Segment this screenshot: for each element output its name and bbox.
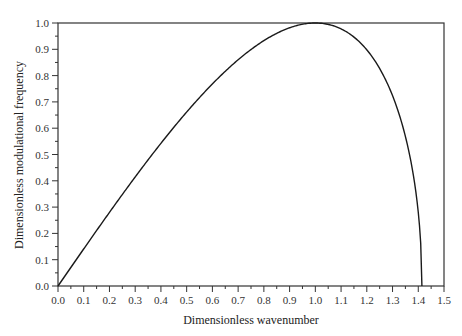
y-tick-label: 1.0 <box>35 17 49 29</box>
x-tick-label: 0.9 <box>283 294 297 306</box>
x-axis-label: Dimensionless wavenumber <box>183 313 319 327</box>
y-axis-label: Dimensionless modulational frequency <box>12 61 26 249</box>
x-tick-label: 0.2 <box>103 294 117 306</box>
x-tick-label: 0.7 <box>231 294 245 306</box>
plot-frame <box>58 23 444 286</box>
x-tick-label: 0.0 <box>51 294 65 306</box>
x-tick-label: 1.0 <box>308 294 322 306</box>
x-axis-ticks: 0.00.10.20.30.40.50.60.70.80.91.01.11.21… <box>51 286 451 306</box>
y-tick-label: 0.9 <box>35 43 49 55</box>
y-tick-label: 0.1 <box>35 254 49 266</box>
y-tick-label: 0.7 <box>35 96 49 108</box>
x-tick-label: 1.4 <box>411 294 425 306</box>
x-tick-label: 1.1 <box>334 294 348 306</box>
x-tick-label: 0.1 <box>77 294 91 306</box>
y-axis-ticks: 0.00.10.20.30.40.50.60.70.80.91.0 <box>35 17 58 292</box>
x-tick-label: 0.3 <box>128 294 142 306</box>
x-tick-label: 1.3 <box>386 294 400 306</box>
y-tick-label: 0.2 <box>35 227 49 239</box>
x-tick-label: 1.5 <box>437 294 451 306</box>
y-tick-label: 0.4 <box>35 175 49 187</box>
y-tick-label: 0.5 <box>35 149 49 161</box>
x-tick-label: 0.8 <box>257 294 271 306</box>
data-curve <box>58 23 422 286</box>
x-tick-label: 1.2 <box>360 294 374 306</box>
chart: 0.00.10.20.30.40.50.60.70.80.91.0 0.00.1… <box>0 0 462 336</box>
y-tick-label: 0.6 <box>35 122 49 134</box>
y-tick-label: 0.3 <box>35 201 49 213</box>
x-tick-label: 0.4 <box>154 294 168 306</box>
x-tick-label: 0.6 <box>206 294 220 306</box>
x-tick-label: 0.5 <box>180 294 194 306</box>
y-tick-label: 0.8 <box>35 70 49 82</box>
y-tick-label: 0.0 <box>35 280 49 292</box>
